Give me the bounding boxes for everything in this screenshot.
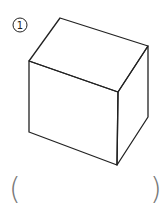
figure-canvas: 1 ( ) [0,0,166,208]
cube-drawing: 1 [0,0,166,208]
item-number: 1 [17,20,23,31]
top-face [29,18,148,92]
answer-open-paren: ( [9,174,21,204]
item-number-marker: 1 [13,18,27,32]
box-edges [29,18,148,165]
answer-blank[interactable] [24,180,148,204]
answer-close-paren: ) [150,174,162,204]
side-face [117,46,148,165]
front-face [29,61,118,165]
